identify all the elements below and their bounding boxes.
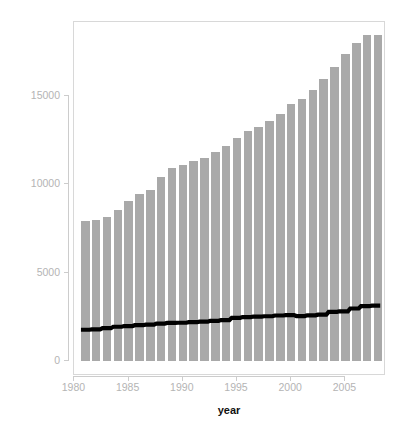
bar — [103, 217, 112, 361]
y-tick-label: 15000 — [14, 90, 60, 100]
bar — [222, 146, 231, 361]
bar — [146, 190, 155, 361]
bar — [233, 138, 242, 361]
chart-figure: Electricity Production (TWh) 05000100001… — [0, 0, 412, 429]
bar — [309, 90, 318, 361]
bar — [265, 121, 274, 361]
y-tick-label: 5000 — [14, 267, 60, 277]
y-tick-mark — [64, 272, 69, 273]
y-tick-label: 10000 — [14, 178, 60, 188]
bar — [319, 79, 328, 361]
x-tick-label: 2000 — [267, 381, 313, 393]
x-tick-label: 1985 — [105, 381, 151, 393]
bar — [374, 35, 383, 361]
bar — [124, 201, 133, 361]
x-tick-label: 1980 — [50, 381, 96, 393]
bar — [341, 54, 350, 361]
plot-inner — [74, 22, 384, 374]
bar — [189, 161, 198, 361]
bar — [157, 177, 166, 361]
y-axis-line — [68, 95, 69, 360]
bar — [363, 35, 372, 361]
bar — [244, 131, 253, 361]
x-tick-label: 2005 — [321, 381, 367, 393]
y-tick-mark — [64, 95, 69, 96]
y-tick-mark — [64, 360, 69, 361]
bar — [168, 168, 177, 361]
bar — [81, 221, 90, 361]
bar — [135, 194, 144, 361]
bar — [352, 43, 361, 361]
y-tick-label: 0 — [14, 355, 60, 365]
x-tick-label: 1990 — [159, 381, 205, 393]
plot-area — [73, 21, 385, 375]
bar — [92, 220, 101, 361]
bar — [211, 152, 220, 361]
bar — [179, 165, 188, 361]
x-axis-line — [73, 376, 344, 377]
bar — [287, 104, 296, 361]
bar — [330, 67, 339, 361]
bar — [114, 210, 123, 361]
y-tick-mark — [64, 183, 69, 184]
bar — [200, 158, 209, 361]
bar — [298, 99, 307, 361]
bar — [276, 114, 285, 361]
x-tick-label: 1995 — [213, 381, 259, 393]
x-axis-title: year — [73, 404, 385, 416]
bar — [254, 127, 263, 361]
